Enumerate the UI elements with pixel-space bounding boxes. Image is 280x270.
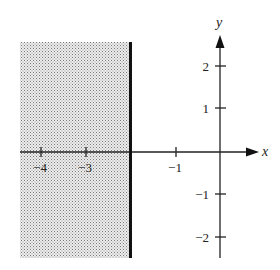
y-tick-label-2: 2 xyxy=(203,59,210,74)
inequality-graph: −4 −3 −1 2 1 −1 −2 x y xyxy=(0,0,280,270)
y-tick-label-1: 1 xyxy=(203,101,210,116)
x-axis-label: x xyxy=(261,144,269,159)
y-axis-label: y xyxy=(214,15,223,30)
shaded-region xyxy=(20,42,130,258)
y-axis-arrow-icon xyxy=(216,35,225,48)
x-tick-label-neg4: −4 xyxy=(33,160,47,175)
x-tick-label-neg1: −1 xyxy=(168,160,182,175)
y-tick-label-neg1: −1 xyxy=(195,187,209,202)
y-tick-label-neg2: −2 xyxy=(195,230,209,245)
x-axis-arrow-icon xyxy=(246,148,259,157)
x-tick-label-neg3: −3 xyxy=(78,160,92,175)
y-axis xyxy=(216,35,225,258)
